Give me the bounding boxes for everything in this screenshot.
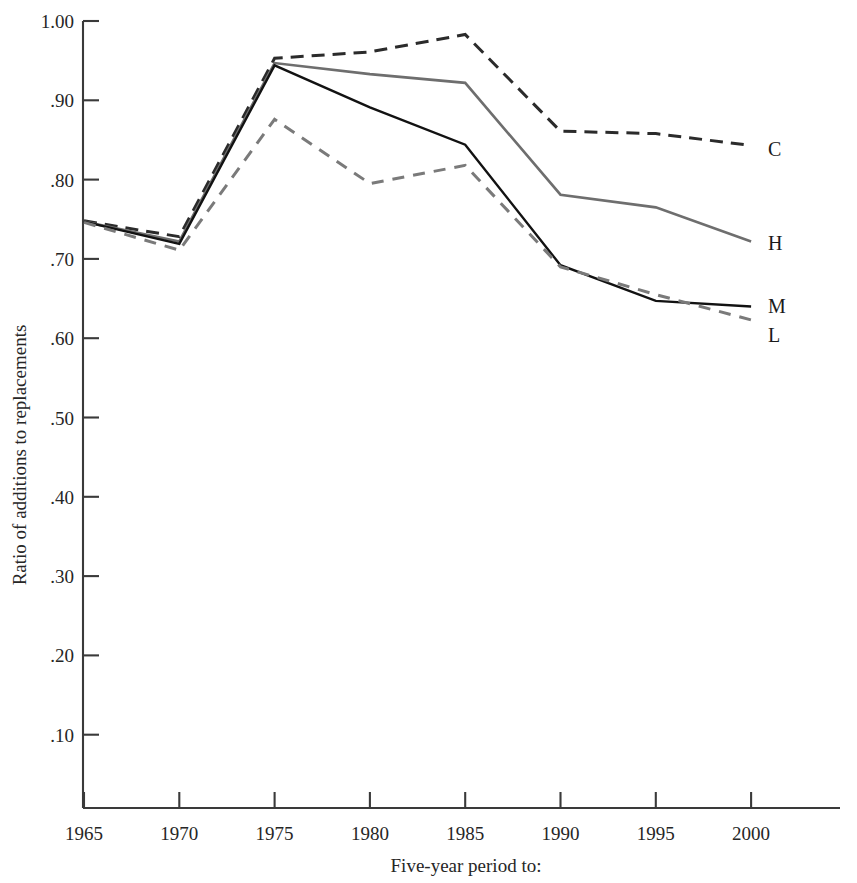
y-tick-label: .20 — [50, 645, 74, 666]
x-axis-ticks: 19651970197519801985199019952000 — [65, 792, 770, 844]
y-tick-label: .10 — [50, 725, 74, 746]
series-labels-group: CHML — [768, 138, 786, 346]
x-tick-label: 1985 — [446, 823, 484, 844]
y-tick-label: .30 — [50, 566, 74, 587]
x-axis-title: Five-year period to: — [391, 855, 542, 876]
series-label-L: L — [768, 324, 780, 346]
y-tick-label: .90 — [50, 90, 74, 111]
chart-container: Ratio of additions to replacements Five-… — [0, 0, 857, 883]
x-tick-label: 1990 — [542, 823, 580, 844]
y-tick-label: 1.00 — [41, 11, 74, 32]
x-tick-label: 2000 — [732, 823, 770, 844]
data-series-group — [84, 34, 751, 319]
series-label-H: H — [768, 232, 782, 254]
y-tick-label: .60 — [50, 328, 74, 349]
y-tick-label: .40 — [50, 487, 74, 508]
x-tick-label: 1970 — [160, 823, 198, 844]
series-label-M: M — [768, 295, 786, 317]
y-tick-label: .50 — [50, 408, 74, 429]
series-line-L — [84, 119, 751, 320]
series-line-M — [84, 65, 751, 306]
x-tick-label: 1980 — [351, 823, 389, 844]
line-chart: Ratio of additions to replacements Five-… — [0, 0, 857, 883]
x-tick-label: 1975 — [256, 823, 294, 844]
x-tick-label: 1965 — [65, 823, 103, 844]
y-tick-label: .70 — [50, 249, 74, 270]
series-label-C: C — [768, 138, 781, 160]
x-tick-label: 1995 — [637, 823, 675, 844]
y-axis-title: Ratio of additions to replacements — [9, 325, 30, 586]
y-axis-ticks: 1.00.90.80.70.60.50.40.30.20.10 — [41, 11, 99, 746]
series-line-H — [84, 63, 751, 241]
y-tick-label: .80 — [50, 170, 74, 191]
